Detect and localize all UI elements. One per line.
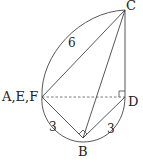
length-label-bd: 3 <box>107 122 115 136</box>
label-aef: A,E,F <box>1 89 38 104</box>
label-c: C <box>126 0 136 13</box>
length-label-ab: 3 <box>49 120 57 134</box>
right-angle-marker-d <box>119 91 125 97</box>
geometry-diagram: C A,E,F D B 6 3 3 <box>0 0 143 163</box>
segment-c-b <box>83 10 125 138</box>
length-label-ac: 6 <box>68 36 76 50</box>
label-b: B <box>78 144 88 159</box>
label-d: D <box>128 94 138 109</box>
